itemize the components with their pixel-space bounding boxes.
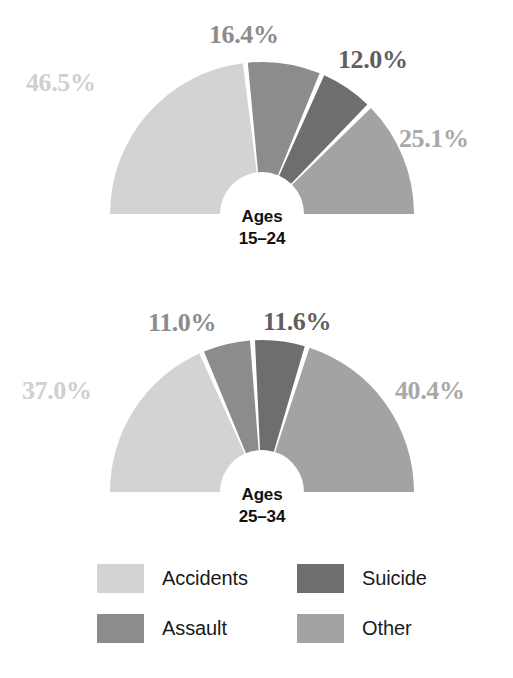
center-label-line2: 25–34 bbox=[162, 506, 362, 528]
legend-label-accidents: Accidents bbox=[162, 567, 248, 590]
half-donut-chart-ages-15-24: 46.5% 16.4% 12.0% 25.1% Ages 15–24 bbox=[0, 0, 513, 278]
center-label-line2: 15–24 bbox=[162, 228, 362, 250]
donut-slice-accidents bbox=[110, 63, 257, 214]
legend-swatch-assault-icon bbox=[97, 614, 144, 643]
center-label-ages-25-34: Ages 25–34 bbox=[162, 484, 362, 528]
center-label-line1: Ages bbox=[162, 484, 362, 506]
center-label-line1: Ages bbox=[162, 206, 362, 228]
legend-item-accidents: Accidents bbox=[97, 564, 248, 593]
legend-label-other: Other bbox=[362, 617, 412, 640]
slice-label-suicide: 11.6% bbox=[263, 309, 331, 335]
slice-label-accidents: 37.0% bbox=[22, 378, 92, 404]
mortality-causes-figure: 46.5% 16.4% 12.0% 25.1% Ages 15–24 37.0%… bbox=[0, 0, 513, 678]
slice-label-suicide: 12.0% bbox=[338, 47, 408, 73]
legend-item-other: Other bbox=[297, 614, 412, 643]
legend: Accidents Suicide Assault Other bbox=[0, 556, 513, 668]
legend-label-suicide: Suicide bbox=[362, 567, 427, 590]
legend-swatch-accidents-icon bbox=[97, 564, 144, 593]
legend-swatch-other-icon bbox=[297, 614, 344, 643]
legend-label-assault: Assault bbox=[162, 617, 227, 640]
slice-label-assault: 16.4% bbox=[209, 22, 279, 48]
slice-label-other: 40.4% bbox=[395, 378, 465, 404]
slice-label-accidents: 46.5% bbox=[26, 70, 96, 96]
slice-label-other: 25.1% bbox=[399, 126, 469, 152]
half-donut-chart-ages-25-34: 37.0% 11.0% 11.6% 40.4% Ages 25–34 bbox=[0, 278, 513, 556]
legend-swatch-suicide-icon bbox=[297, 564, 344, 593]
center-label-ages-15-24: Ages 15–24 bbox=[162, 206, 362, 250]
legend-item-assault: Assault bbox=[97, 614, 227, 643]
legend-item-suicide: Suicide bbox=[297, 564, 427, 593]
slice-label-assault: 11.0% bbox=[148, 310, 216, 336]
